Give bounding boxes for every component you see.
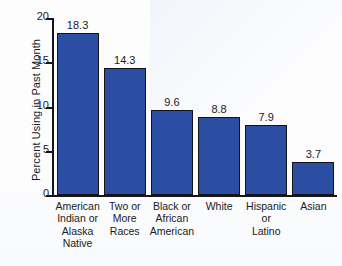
x-axis-category-label-line: Native <box>52 237 103 249</box>
x-axis-category-label: White <box>194 200 245 212</box>
bar-value-label: 9.6 <box>151 96 193 108</box>
bar-value-label: 18.3 <box>57 19 99 31</box>
x-axis-category-label-line: Races <box>99 225 150 237</box>
x-axis-category-label: Black orAfricanAmerican <box>146 200 197 237</box>
x-axis-category-label-line: Indian or <box>52 212 103 224</box>
y-axis-tick-label: 10 <box>37 99 49 111</box>
bar-series: 18.314.39.68.87.93.7 <box>54 18 337 195</box>
plot-area: 05101520 18.314.39.68.87.93.7 <box>52 18 337 197</box>
y-axis-tick-label: 15 <box>37 54 49 66</box>
bar-slot: 14.3 <box>104 18 146 195</box>
chart-canvas: Percent Using in Past Month 05101520 18.… <box>0 0 342 266</box>
bar <box>57 33 99 195</box>
x-axis-category-label: AmericanIndian orAlaskaNative <box>52 200 103 249</box>
bar <box>104 68 146 195</box>
bar-value-label: 8.8 <box>198 103 240 115</box>
bar-value-label: 7.9 <box>245 111 287 123</box>
x-axis-category-label-line: or <box>241 212 292 224</box>
x-axis-category-label: HispanicorLatino <box>241 200 292 237</box>
y-axis-tick-label: 5 <box>43 143 49 155</box>
x-axis-category-label-line: Two or <box>99 200 150 212</box>
x-axis-category-label-line: Latino <box>241 225 292 237</box>
bar-slot: 3.7 <box>292 18 334 195</box>
x-axis-category-label-line: Asian <box>288 200 339 212</box>
bar <box>292 162 334 195</box>
bar <box>245 125 287 195</box>
bar-value-label: 14.3 <box>104 54 146 66</box>
x-axis-category-label-line: Hispanic <box>241 200 292 212</box>
x-axis-category-label: Asian <box>288 200 339 212</box>
bar-value-label: 3.7 <box>292 148 334 160</box>
bar-slot: 7.9 <box>245 18 287 195</box>
x-axis-category-label-line: American <box>52 200 103 212</box>
x-axis-category-label-line: More <box>99 212 150 224</box>
y-axis-tick-label: 20 <box>37 10 49 22</box>
x-axis-category-label: Two orMoreRaces <box>99 200 150 237</box>
x-axis-category-label-line: White <box>194 200 245 212</box>
bar-slot: 9.6 <box>151 18 193 195</box>
x-axis-category-label-line: African <box>146 212 197 224</box>
y-axis-tick-label: 0 <box>43 187 49 199</box>
x-axis-category-labels: AmericanIndian orAlaskaNativeTwo orMoreR… <box>54 200 337 262</box>
x-axis-line <box>52 195 337 197</box>
x-axis-category-label-line: Black or <box>146 200 197 212</box>
bar-slot: 8.8 <box>198 18 240 195</box>
bar-slot: 18.3 <box>57 18 99 195</box>
x-axis-category-label-line: American <box>146 225 197 237</box>
bar <box>151 110 193 195</box>
x-axis-category-label-line: Alaska <box>52 225 103 237</box>
bar <box>198 117 240 195</box>
